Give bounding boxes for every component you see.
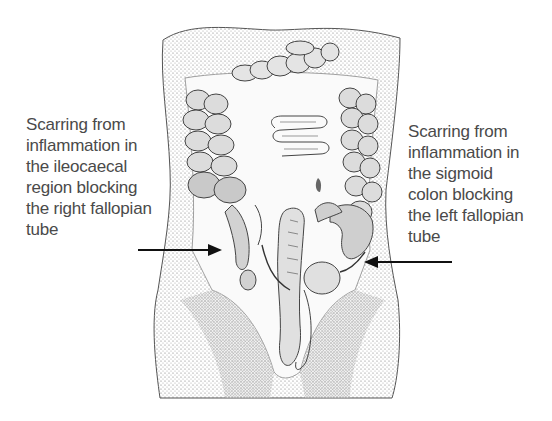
annotation-line: the sigmoid [408, 163, 523, 184]
annotation-line: Scarring from [26, 114, 152, 135]
annotation-line: Scarring from [408, 121, 523, 142]
annotation-right-sigmoid: Scarring from inflammation in the sigmoi… [408, 121, 523, 247]
annotation-line: the right fallopian [26, 198, 152, 219]
annotation-line: inflammation in [26, 135, 152, 156]
arrow-left-pointing [364, 256, 452, 268]
annotation-line: colon blocking [408, 184, 523, 205]
annotation-line: tube [26, 219, 152, 240]
annotation-line: inflammation in [408, 142, 523, 163]
annotation-line: the left fallopian [408, 205, 523, 226]
annotation-line: tube [408, 226, 523, 247]
annotation-left-ileocaecal: Scarring from inflammation in the ileoca… [26, 114, 152, 240]
annotation-line: region blocking [26, 177, 152, 198]
annotation-line: the ileocaecal [26, 156, 152, 177]
